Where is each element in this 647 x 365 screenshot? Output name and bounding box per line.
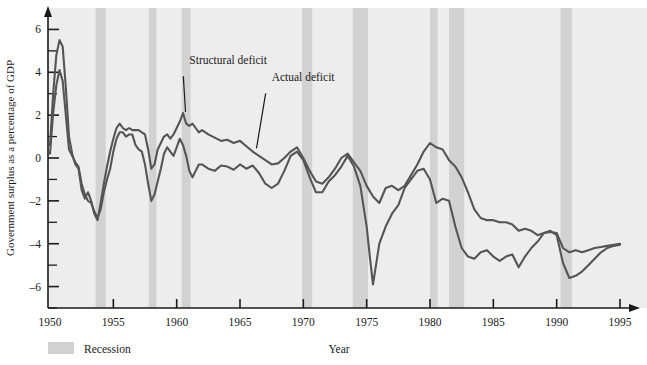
annotation-label: Actual deficit (272, 71, 336, 83)
legend-recession-label: Recession (84, 343, 131, 355)
x-tick-label: 1975 (355, 316, 378, 328)
y-tick-label: –2 (29, 195, 42, 207)
x-tick-label: 1970 (292, 316, 315, 328)
x-tick-label: 1960 (165, 316, 188, 328)
x-axis-title: Year (328, 343, 349, 355)
x-tick-label: 1985 (482, 316, 505, 328)
recession-band (430, 8, 438, 308)
y-tick-label: –6 (29, 281, 42, 293)
recession-band (449, 8, 464, 308)
y-tick-label: 4 (35, 66, 41, 78)
y-tick-label: 0 (35, 152, 41, 164)
y-tick-label: 6 (35, 23, 41, 35)
y-tick-label: –4 (29, 238, 42, 250)
legend: Recession (48, 342, 131, 355)
x-tick-label: 1965 (229, 316, 252, 328)
x-tick-label: 1955 (102, 316, 125, 328)
annotation-label: Structural deficit (189, 54, 267, 66)
legend-recession-swatch (48, 342, 74, 354)
x-tick-label: 1995 (609, 316, 632, 328)
x-tick-label: 1950 (39, 316, 62, 328)
y-axis-title: Government surplus as a percentage of GD… (4, 60, 16, 256)
x-tick-label: 1990 (545, 316, 568, 328)
chart-root: –6–4–20246 19501955196019651970197519801… (0, 0, 647, 365)
deficit-line-chart: –6–4–20246 19501955196019651970197519801… (0, 0, 647, 365)
recession-band (96, 8, 106, 308)
recession-band (353, 8, 368, 308)
y-tick-label: 2 (35, 109, 41, 121)
x-tick-label: 1980 (419, 316, 442, 328)
